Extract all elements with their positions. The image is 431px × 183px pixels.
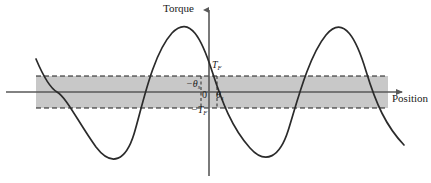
y-axis-label: Torque: [163, 3, 194, 14]
lower-torque-threshold-subscript: F: [203, 109, 207, 116]
negative-theta-symbol: θ: [193, 78, 198, 89]
positive-theta-label: θs: [216, 90, 223, 100]
negative-theta-sign: −: [186, 78, 193, 89]
upper-torque-threshold-label: TF: [212, 60, 222, 70]
x-axis-label: Position: [392, 93, 428, 104]
torque-position-figure: Torque Position TF −TF −θs θs 0: [0, 0, 431, 183]
positive-theta-subscript: s: [221, 94, 224, 101]
lower-torque-threshold-sign: −: [191, 104, 198, 115]
lower-torque-threshold-label: −TF: [191, 105, 207, 115]
upper-torque-threshold-subscript: F: [218, 64, 222, 71]
negative-theta-label: −θs: [186, 79, 200, 89]
upper-torque-threshold-symbol: T: [212, 59, 218, 70]
negative-theta-subscript: s: [198, 83, 201, 90]
origin-label: 0: [202, 90, 207, 100]
